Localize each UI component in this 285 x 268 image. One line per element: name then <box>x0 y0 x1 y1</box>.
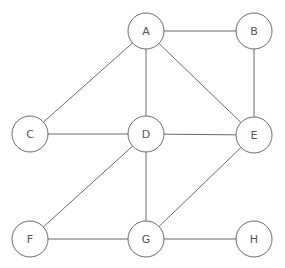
node-h: H <box>236 221 272 257</box>
node-label: A <box>142 25 150 38</box>
node-label: B <box>250 25 258 38</box>
node-label: D <box>142 128 150 141</box>
node-b: B <box>236 13 272 49</box>
node-label: E <box>251 129 258 142</box>
graph-diagram: ABCDEFGH <box>0 0 285 268</box>
edge-a-c <box>30 31 146 134</box>
edge-e-g <box>146 135 254 239</box>
node-label: F <box>27 233 33 246</box>
edge-a-e <box>146 31 254 135</box>
node-f: F <box>12 221 48 257</box>
node-label: H <box>250 233 258 246</box>
node-label: G <box>142 233 151 246</box>
node-a: A <box>128 13 164 49</box>
node-label: C <box>26 128 34 141</box>
edge-d-f <box>30 134 146 239</box>
node-c: C <box>12 116 48 152</box>
node-e: E <box>236 117 272 153</box>
node-g: G <box>128 221 164 257</box>
node-d: D <box>128 116 164 152</box>
